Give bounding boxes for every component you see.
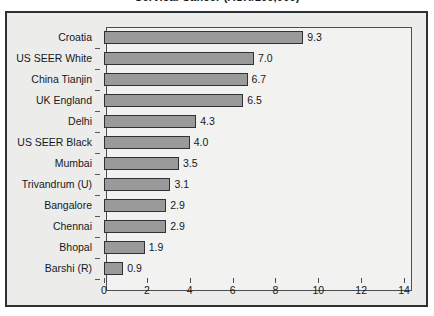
bar-chart-figure: Cervical Cancer (ASR/100,000) Croatia9.3…	[0, 0, 434, 316]
chart-title: Cervical Cancer (ASR/100,000)	[0, 0, 434, 5]
chart-panel	[5, 11, 428, 307]
plot-area-frame	[106, 27, 412, 291]
